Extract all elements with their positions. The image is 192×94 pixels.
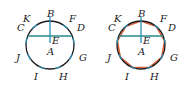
point-label-i: I — [33, 71, 39, 82]
point-label-d: D — [76, 22, 85, 33]
point-label-f: F — [159, 13, 168, 24]
arc-tick — [69, 54, 72, 59]
point-label-f: F — [68, 13, 77, 24]
point-label-a: A — [137, 46, 145, 57]
diagram-canvas: BFKCDEAJGIH BFKCDEAJGIH — [0, 0, 192, 94]
point-label-g: G — [170, 52, 178, 63]
arc-tick — [32, 25, 37, 29]
point-label-c: C — [108, 22, 116, 33]
point-label-a: A — [46, 46, 54, 57]
arc-tick — [63, 25, 68, 29]
point-label-c: C — [17, 22, 25, 33]
arc-tick — [28, 54, 31, 59]
point-label-b: B — [46, 8, 54, 19]
point-label-g: G — [79, 52, 87, 63]
point-label-e: E — [142, 35, 151, 46]
point-label-h: H — [58, 71, 68, 82]
point-label-d: D — [167, 22, 176, 33]
figure-left: BFKCDEAJGIH — [14, 8, 87, 82]
point-label-i: I — [124, 71, 130, 82]
point-label-j: J — [14, 52, 21, 63]
point-label-e: E — [51, 35, 60, 46]
figure-right: BFKCDEAJGIH — [105, 8, 178, 82]
point-label-b: B — [137, 8, 145, 19]
point-label-j: J — [105, 52, 112, 63]
point-label-h: H — [149, 71, 159, 82]
